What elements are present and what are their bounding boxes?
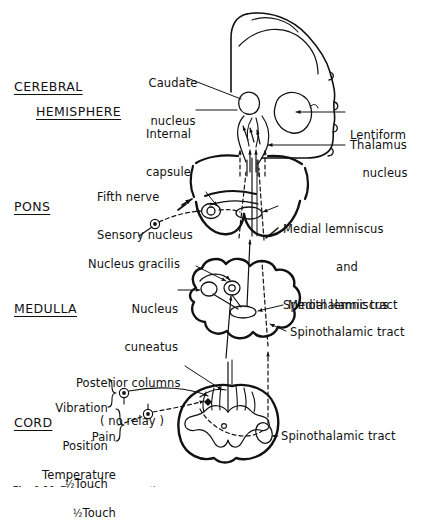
label-spinothalamic-tract-cord: Spinothalamic tract xyxy=(281,430,396,443)
nucleus-gracilis-shape xyxy=(224,281,240,295)
leader-medial-lemniscus-pons xyxy=(263,206,278,212)
label-medial-lemniscus-medulla: Medial lemniscus xyxy=(288,299,389,312)
lentiform-nucleus-shape xyxy=(274,92,311,133)
region-label-hemisphere: HEMISPHERE xyxy=(36,104,121,119)
medulla-medial-lemniscus-shape xyxy=(230,306,256,318)
leader-posterior-columns xyxy=(185,366,222,390)
region-label-pons: PONS xyxy=(14,199,50,214)
label-spinothalamic-tract-medulla: Spinothalamic tract xyxy=(290,326,405,339)
leader-nucleus-gracilis xyxy=(196,266,226,281)
leader-medial-lemniscus-medulla xyxy=(258,305,283,311)
label-nucleus-gracilis: Nucleus gracilis xyxy=(88,258,180,271)
region-label-medulla: MEDULLA xyxy=(14,301,77,316)
nucleus-cuneatus-shape xyxy=(201,282,217,296)
label-modality-spinothalamic: Pain Temperature ½Touch xyxy=(10,406,116,521)
figure-caption: Fig. 9.10. The main sensory pathways xyxy=(2,475,232,487)
label-medial-lemniscus-and-spinothalamic: Medial lemniscus and Spinothalamic tract xyxy=(283,198,423,337)
pons-medial-lemniscus-shape xyxy=(236,207,262,219)
corpus-callosum xyxy=(239,29,318,74)
label-thalamus: Thalamus xyxy=(350,139,407,152)
region-label-cerebral: CEREBRAL xyxy=(14,79,83,94)
caudate-nucleus-shape xyxy=(239,92,260,114)
half-fraction-pain: ½ xyxy=(73,508,83,519)
label-lentiform-nucleus: Lentiform nucleus xyxy=(350,104,420,205)
label-fifth-nerve-sensory-nucleus: Fifth nerve Sensory nucleus xyxy=(97,166,207,267)
cord-spinothalamic-shape xyxy=(253,421,275,446)
